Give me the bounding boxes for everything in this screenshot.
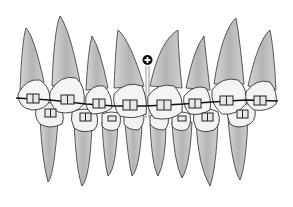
upper-roots: [20, 16, 276, 90]
lower-roots: [40, 118, 248, 186]
teeth-illustration: [0, 0, 293, 207]
dental-braces-diagram: [0, 0, 293, 207]
